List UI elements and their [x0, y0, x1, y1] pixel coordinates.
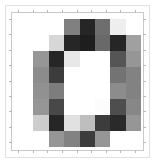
x-tick-top [62, 10, 63, 13]
pixel-cell [110, 67, 125, 83]
pixel-cell [49, 51, 64, 67]
pixel-cell [64, 99, 79, 115]
pixel-cell [126, 99, 141, 115]
y-tick [9, 65, 12, 66]
pixel-cell [49, 99, 64, 115]
pixel-cell [64, 35, 79, 51]
y-tick-right [143, 111, 146, 112]
pixel-cell [18, 35, 33, 51]
x-tick-top [77, 10, 78, 13]
pixel-cell [126, 131, 141, 147]
pixel-cell [110, 83, 125, 99]
y-tick [9, 127, 12, 128]
pixel-cell [64, 131, 79, 147]
pixel-cell [18, 19, 33, 35]
y-tick-right [143, 19, 146, 20]
pixel-cell [49, 67, 64, 83]
pixel-cell [80, 35, 95, 51]
x-tick [106, 150, 107, 153]
x-tick-top [18, 10, 19, 13]
pixel-cell [95, 51, 110, 67]
pixel-cell [126, 35, 141, 51]
x-tick [120, 150, 121, 153]
pixel-cell [33, 99, 48, 115]
pixel-cell [64, 83, 79, 99]
x-tick [62, 150, 63, 153]
pixel-cell [110, 131, 125, 147]
pixel-cell [18, 51, 33, 67]
x-tick [18, 150, 19, 153]
pixel-cell [80, 67, 95, 83]
pixel-cell [80, 19, 95, 35]
pixel-cell [33, 51, 48, 67]
y-tick-right [143, 34, 146, 35]
pixel-cell [49, 131, 64, 147]
pixel-cell [126, 19, 141, 35]
pixel-cell [18, 67, 33, 83]
pixel-cell [33, 83, 48, 99]
y-tick [9, 111, 12, 112]
pixel-cell [95, 83, 110, 99]
pixel-cell [95, 115, 110, 131]
y-tick [9, 142, 12, 143]
pixel-cell [64, 51, 79, 67]
x-tick [91, 150, 92, 153]
pixel-cell [80, 99, 95, 115]
x-tick [47, 150, 48, 153]
pixel-cell [126, 115, 141, 131]
pixel-cell [95, 131, 110, 147]
y-tick-right [143, 81, 146, 82]
pixel-cell [95, 19, 110, 35]
pixel-cell [18, 131, 33, 147]
pixel-cell [126, 51, 141, 67]
y-tick-right [143, 96, 146, 97]
x-tick [77, 150, 78, 153]
pixel-cell [49, 83, 64, 99]
figure-canvas [0, 0, 155, 163]
pixel-cell [80, 131, 95, 147]
pixel-cell [18, 83, 33, 99]
x-tick-top [33, 10, 34, 13]
pixel-cell [49, 19, 64, 35]
y-tick-right [143, 50, 146, 51]
pixel-cell [110, 115, 125, 131]
y-tick [9, 50, 12, 51]
x-tick-top [47, 10, 48, 13]
pixel-cell [33, 67, 48, 83]
y-tick-right [143, 142, 146, 143]
pixel-cell [80, 83, 95, 99]
pixel-cell [110, 51, 125, 67]
pixel-image [18, 19, 141, 147]
pixel-cell [33, 19, 48, 35]
x-tick-top [120, 10, 121, 13]
pixel-cell [95, 99, 110, 115]
x-tick-top [106, 10, 107, 13]
pixel-cell [33, 35, 48, 51]
x-tick-top [91, 10, 92, 13]
y-tick-right [143, 65, 146, 66]
pixel-cell [33, 115, 48, 131]
x-tick-top [135, 10, 136, 13]
pixel-cell [64, 67, 79, 83]
pixel-cell [33, 131, 48, 147]
x-tick [33, 150, 34, 153]
y-tick [9, 19, 12, 20]
pixel-cell [49, 115, 64, 131]
y-tick [9, 81, 12, 82]
pixel-cell [110, 19, 125, 35]
plot-axes [11, 12, 144, 151]
pixel-cell [18, 99, 33, 115]
y-tick-right [143, 127, 146, 128]
pixel-cell [80, 115, 95, 131]
pixel-cell [110, 35, 125, 51]
pixel-cell [18, 115, 33, 131]
pixel-cell [126, 67, 141, 83]
pixel-cell [64, 115, 79, 131]
y-tick [9, 34, 12, 35]
pixel-cell [64, 19, 79, 35]
pixel-cell [49, 35, 64, 51]
pixel-cell [110, 99, 125, 115]
y-tick [9, 96, 12, 97]
pixel-cell [126, 83, 141, 99]
pixel-cell [80, 51, 95, 67]
